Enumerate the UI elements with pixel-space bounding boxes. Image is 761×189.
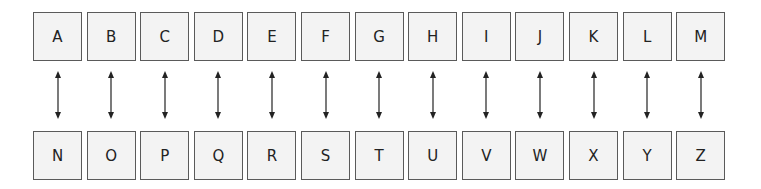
bottom-letter-box: Q: [194, 131, 243, 180]
bottom-letter-box: O: [87, 131, 136, 180]
top-letter-box: D: [194, 12, 243, 61]
bottom-letter-box: S: [301, 131, 350, 180]
double-arrow-icon: [480, 71, 492, 119]
bottom-letter-box: Z: [676, 131, 725, 180]
double-arrow-icon: [266, 71, 278, 119]
bottom-letter-box: R: [247, 131, 296, 180]
bottom-letter-box: U: [408, 131, 457, 180]
top-letter-box: J: [515, 12, 564, 61]
top-letter-box: B: [87, 12, 136, 61]
top-letter-box: H: [408, 12, 457, 61]
bottom-letter-box: T: [355, 131, 404, 180]
double-arrow-icon: [320, 71, 332, 119]
double-arrow-icon: [212, 71, 224, 119]
double-arrow-icon: [695, 71, 707, 119]
top-letter-box: M: [676, 12, 725, 61]
top-letter-box: E: [247, 12, 296, 61]
double-arrow-icon: [373, 71, 385, 119]
top-letter-box: L: [623, 12, 672, 61]
double-arrow-icon: [52, 71, 64, 119]
double-arrow-icon: [641, 71, 653, 119]
double-arrow-icon: [534, 71, 546, 119]
bottom-letter-box: N: [33, 131, 82, 180]
double-arrow-icon: [105, 71, 117, 119]
bottom-letter-box: V: [462, 131, 511, 180]
bottom-letter-box: P: [140, 131, 189, 180]
top-letter-box: A: [33, 12, 82, 61]
double-arrow-icon: [588, 71, 600, 119]
top-letter-box: C: [140, 12, 189, 61]
bottom-letter-box: W: [515, 131, 564, 180]
top-letter-box: F: [301, 12, 350, 61]
bottom-letter-box: Y: [623, 131, 672, 180]
bottom-letter-box: X: [569, 131, 618, 180]
top-letter-box: I: [462, 12, 511, 61]
double-arrow-icon: [427, 71, 439, 119]
top-letter-box: G: [355, 12, 404, 61]
double-arrow-icon: [159, 71, 171, 119]
top-letter-box: K: [569, 12, 618, 61]
